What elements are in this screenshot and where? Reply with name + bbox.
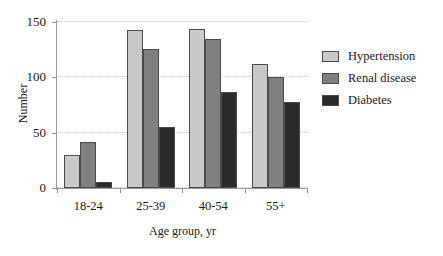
bar (268, 77, 284, 188)
bar (127, 30, 143, 188)
x-axis-tick (182, 188, 183, 193)
bar (159, 127, 175, 188)
legend-swatch (322, 73, 339, 84)
bar-group (64, 22, 112, 188)
y-axis-tick-label: 0 (6, 181, 46, 194)
legend-swatch (322, 51, 339, 62)
y-axis-tick-label: 150 (6, 15, 46, 28)
x-axis-tick-label: 40-54 (178, 199, 248, 214)
bar-chart: Number 050100150 18-2425-3940-5455+ Age … (0, 0, 443, 256)
bar-group (127, 22, 175, 188)
legend-label: Renal disease (348, 71, 416, 86)
x-axis-tick (57, 188, 58, 193)
bar (80, 142, 96, 188)
bar (284, 102, 300, 188)
plot-area (57, 22, 307, 188)
x-axis-tick-label: 25-39 (116, 199, 186, 214)
legend-label: Hypertension (348, 49, 415, 64)
y-axis-tick-label: 100 (6, 70, 46, 83)
bar (189, 29, 205, 188)
x-axis-title: Age group, yr (57, 224, 308, 239)
legend-label: Diabetes (348, 93, 392, 108)
bar (252, 64, 268, 188)
legend-item: Diabetes (322, 89, 416, 111)
x-axis-tick-label: 55+ (241, 199, 311, 214)
chart-legend: HypertensionRenal diseaseDiabetes (322, 45, 416, 111)
legend-swatch (322, 95, 339, 106)
legend-item: Renal disease (322, 67, 416, 89)
bar-group (189, 22, 237, 188)
x-axis-tick (120, 188, 121, 193)
legend-item: Hypertension (322, 45, 416, 67)
bar (221, 92, 237, 188)
bar-group (252, 22, 300, 188)
bar (96, 182, 112, 188)
x-axis-tick-label: 18-24 (53, 199, 123, 214)
bar (143, 49, 159, 188)
y-axis-tick-label: 50 (6, 126, 46, 139)
bar (205, 39, 221, 188)
x-axis-tick (307, 188, 308, 193)
bar (64, 155, 80, 188)
x-axis-tick (245, 188, 246, 193)
